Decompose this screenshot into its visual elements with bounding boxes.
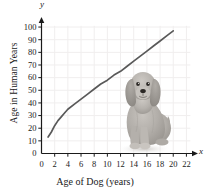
dog-photo xyxy=(112,66,176,154)
y-tick-label: 10 xyxy=(8,137,37,146)
y-tick-label: 60 xyxy=(8,73,37,82)
y-tick-label: 70 xyxy=(8,61,37,70)
x-axis-title: Age of Dog (years) xyxy=(0,176,190,187)
y-tick-label: 40 xyxy=(8,99,37,108)
y-tick-label: 90 xyxy=(8,36,37,45)
y-tick-label: 100 xyxy=(8,23,37,32)
chart-figure: y x xyxy=(0,0,209,195)
y-tick-label: 80 xyxy=(8,48,37,57)
x-tick-label: 22 xyxy=(178,160,194,169)
y-tick-label: 30 xyxy=(8,111,37,120)
y-tick-label: 20 xyxy=(8,124,37,133)
y-tick-label: 0 xyxy=(8,149,37,158)
y-tick-label: 50 xyxy=(8,86,37,95)
